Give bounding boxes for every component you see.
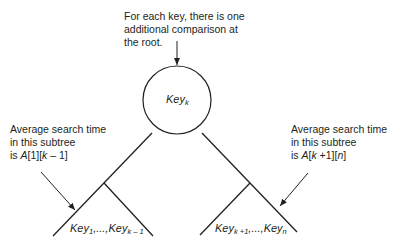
left-subtree-keys-label: Key1,...,Keyk – 1 — [70, 222, 144, 236]
left-note-line-2: in this subtree — [10, 136, 106, 149]
left-note-arrow — [41, 172, 75, 210]
root-note-line-1: For each key, there is one — [124, 10, 245, 23]
right-note-line-3: is A[k +1][n] — [291, 149, 387, 162]
root-node-label: Keyk — [166, 93, 189, 107]
root-note-line-2: additional comparison at — [124, 23, 245, 36]
right-note-line-1: Average search time — [291, 123, 387, 136]
right-note-line-2: in this subtree — [291, 136, 387, 149]
left-note-line-1: Average search time — [10, 123, 106, 136]
right-note-arrow — [280, 173, 308, 206]
right-subtree-note: Average search time in this subtree is A… — [291, 123, 387, 162]
right-branch-edge — [202, 133, 297, 232]
left-subtree-note: Average search time in this subtree is A… — [10, 123, 106, 162]
root-note-line-3: the root. — [124, 36, 245, 49]
root-comparison-note: For each key, there is one additional co… — [124, 10, 245, 49]
right-subtree-keys-label: Keyk +1,...,Keyn — [215, 222, 287, 236]
left-note-line-3: is A[1][k – 1] — [10, 149, 106, 162]
